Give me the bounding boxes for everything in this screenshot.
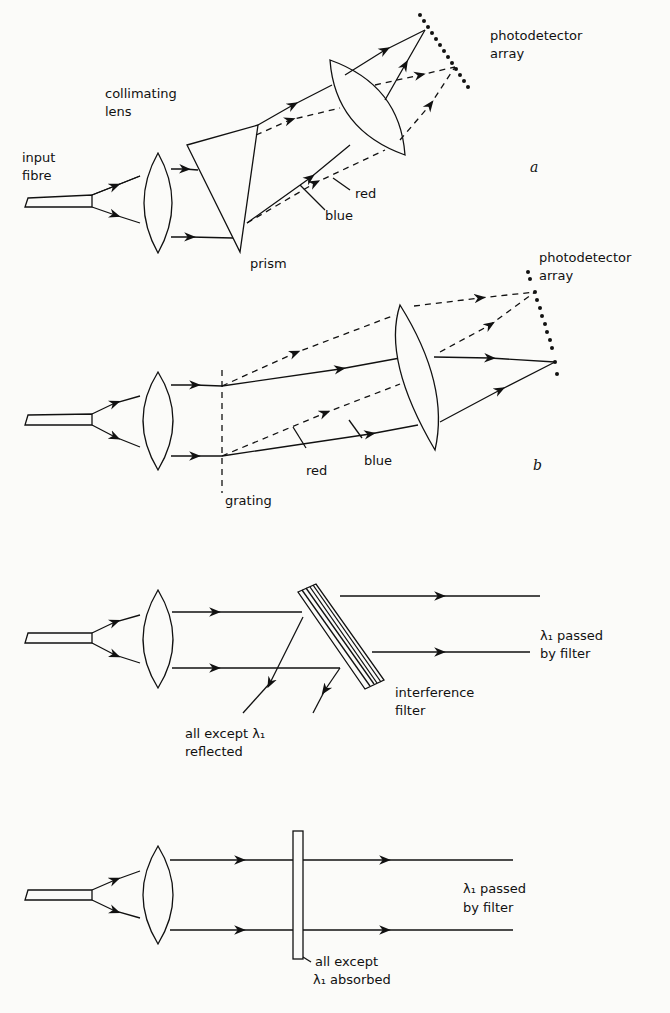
label-blue-a: blue — [325, 208, 353, 223]
label-by-filter-d: by filter — [463, 900, 514, 915]
photodetector-array-a — [418, 13, 470, 89]
label-b: b — [533, 457, 542, 473]
label-lens: lens — [105, 104, 132, 119]
diagram-b-grating-spectrometer: red blue grating photodetector array b — [25, 250, 632, 508]
label-photodetector-a: photodetector — [490, 28, 583, 43]
label-array-b: array — [539, 268, 573, 283]
label-input: input — [22, 150, 55, 165]
input-fibre — [25, 414, 92, 425]
label-passed-c: λ₁ passed — [540, 628, 603, 643]
label-absorbed: λ₁ absorbed — [313, 972, 391, 987]
label-array-a: array — [490, 46, 524, 61]
input-fibre — [25, 890, 92, 900]
label-blue-b: blue — [364, 453, 392, 468]
collimating-lens — [143, 372, 173, 470]
label-all-except-c: all except λ₁ — [185, 726, 265, 741]
label-a: a — [530, 159, 538, 175]
label-by-filter-c: by filter — [540, 646, 591, 661]
diagram-d-absorption-filter: λ₁ passed by filter all except λ₁ absorb… — [25, 831, 526, 987]
leader-absorbed — [303, 957, 311, 962]
diagram-c-interference-filter: λ₁ passed by filter interference filter … — [25, 584, 603, 759]
prism — [187, 125, 258, 252]
label-collimating: collimating — [105, 86, 177, 101]
collimating-lens — [143, 846, 173, 944]
label-red-a: red — [355, 186, 376, 201]
optical-demultiplexer-diagrams: input fibre collimating lens prism photo… — [0, 0, 670, 1013]
absorption-filter — [293, 831, 303, 959]
label-interference: interference — [395, 685, 474, 700]
leader-red-a — [333, 178, 350, 190]
focusing-lens — [330, 60, 405, 155]
label-all-except-d: all except — [315, 954, 378, 969]
label-photodetector-b: photodetector — [539, 250, 632, 265]
label-passed-d: λ₁ passed — [463, 881, 526, 896]
label-fibre: fibre — [22, 168, 52, 183]
interference-filter — [298, 584, 384, 689]
collimating-lens — [143, 590, 173, 688]
label-grating: grating — [225, 493, 272, 508]
label-prism: prism — [250, 256, 287, 271]
label-filter: filter — [395, 703, 426, 718]
leader-blue-a — [300, 185, 325, 210]
label-reflected: reflected — [185, 744, 243, 759]
collimating-lens — [144, 153, 172, 253]
leader-blue-b — [349, 420, 362, 438]
input-fibre — [25, 633, 92, 643]
input-fibre — [25, 195, 92, 207]
label-red-b: red — [306, 463, 327, 478]
diagram-a-prism-spectrometer: input fibre collimating lens prism photo… — [22, 13, 583, 271]
